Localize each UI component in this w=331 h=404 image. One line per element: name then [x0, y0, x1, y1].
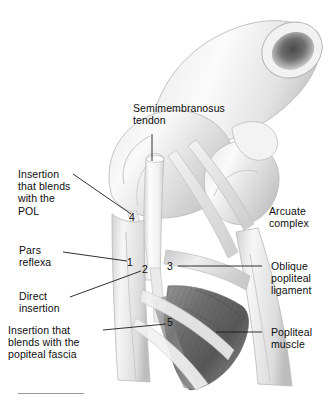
callout-number-4: 4 — [129, 212, 135, 223]
callout-number-2: 2 — [142, 264, 148, 275]
label-semimembranosus-tendon: Semimembranosus tendon — [133, 102, 225, 126]
callout-number-1: 1 — [127, 257, 133, 268]
callout-number-3: 3 — [167, 261, 173, 272]
callout-number-5: 5 — [167, 317, 173, 328]
label-insertion-pol: Insertion that blends with the POL — [18, 168, 70, 217]
label-pars-reflexa: Pars reflexa — [19, 244, 51, 268]
oblique-popliteal-ligament — [164, 250, 250, 290]
footer-rule — [18, 393, 84, 394]
label-popliteal-muscle: Popliteal muscle — [271, 326, 312, 350]
label-insertion-popiteal-fascia: Insertion that blends with the popiteal … — [8, 324, 80, 361]
label-direct-insertion: Direct insertion — [19, 290, 60, 314]
anatomical-figure: 4 1 2 3 5 Semimembranosus tendon Inserti… — [0, 0, 331, 404]
label-oblique-popliteal-ligament: Oblique popliteal ligament — [271, 260, 312, 297]
label-arcuate-complex: Arcuate complex — [269, 205, 309, 229]
fibula — [236, 228, 292, 386]
